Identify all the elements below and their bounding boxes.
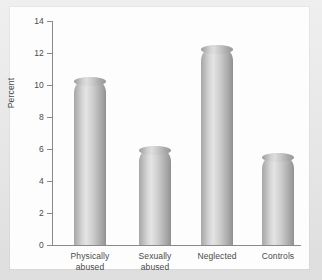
y-tick-12: [47, 53, 52, 54]
y-tick-label-6: 6: [4, 145, 44, 154]
bar-cap: [262, 153, 294, 162]
y-axis-line: [52, 21, 53, 246]
y-tick-label-0: 0: [4, 241, 44, 250]
y-tick-0: [47, 245, 52, 246]
x-label-line-2: abused: [119, 262, 191, 273]
chart-screenshot: Percent 14 12 10 8 6 4 2 0: [0, 0, 322, 280]
y-tick-label-14: 14: [4, 17, 44, 26]
bar-chart: Percent 14 12 10 8 6 4 2 0: [0, 0, 322, 280]
x-label-physically-abused: Physically abused: [54, 251, 126, 272]
y-tick-label-4: 4: [4, 177, 44, 186]
x-label-line-1: Physically: [54, 251, 126, 262]
x-label-line-1: Controls: [242, 251, 314, 262]
bar-neglected[interactable]: [201, 45, 233, 245]
y-tick-6: [47, 149, 52, 150]
bar-sexually-abused[interactable]: [139, 146, 171, 245]
bar-cap: [74, 77, 106, 86]
y-tick-label-2: 2: [4, 209, 44, 218]
y-tick-14: [47, 21, 52, 22]
y-tick-label-12: 12: [4, 49, 44, 58]
bar-controls[interactable]: [262, 153, 294, 245]
bar-physically-abused[interactable]: [74, 77, 106, 245]
y-tick-label-8: 8: [4, 113, 44, 122]
y-tick-4: [47, 181, 52, 182]
x-label-controls: Controls: [242, 251, 314, 262]
x-axis-line: [52, 245, 301, 246]
y-tick-10: [47, 85, 52, 86]
y-tick-8: [47, 117, 52, 118]
y-tick-2: [47, 213, 52, 214]
y-tick-label-10: 10: [4, 81, 44, 90]
bar-cap: [139, 146, 171, 155]
bar-cap: [201, 45, 233, 54]
x-label-line-2: abused: [54, 262, 126, 273]
